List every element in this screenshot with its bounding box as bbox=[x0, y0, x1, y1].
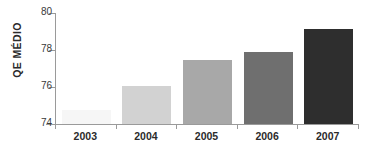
bar bbox=[122, 86, 171, 124]
y-tick-label: 78 bbox=[41, 43, 52, 54]
x-tick-mark bbox=[237, 124, 238, 129]
y-tick-label: 80 bbox=[41, 6, 52, 17]
plot-area: 74767880 bbox=[55, 13, 358, 124]
chart-title bbox=[62, 0, 308, 3]
x-tick-mark bbox=[55, 124, 56, 129]
x-axis-label: 2003 bbox=[55, 130, 116, 142]
x-tick-mark bbox=[116, 124, 117, 129]
bar bbox=[62, 110, 111, 124]
x-axis-label: 2007 bbox=[297, 130, 358, 142]
x-axis: 20032004200520062007 bbox=[46, 124, 358, 149]
bar-chart: QE MÉDIO 74767880 20032004200520062007 bbox=[0, 0, 368, 149]
x-tick-mark bbox=[297, 124, 298, 129]
y-axis-title: QE MÉDIO bbox=[11, 7, 23, 93]
x-axis-label: 2006 bbox=[237, 130, 298, 142]
bar bbox=[183, 60, 232, 124]
x-axis-label: 2004 bbox=[116, 130, 177, 142]
x-tick-mark bbox=[358, 124, 359, 129]
x-tick-mark bbox=[176, 124, 177, 129]
bar bbox=[244, 52, 293, 124]
y-tick-label: 76 bbox=[41, 80, 52, 91]
bar-series bbox=[55, 13, 358, 124]
bar bbox=[304, 29, 353, 124]
x-axis-label: 2005 bbox=[176, 130, 237, 142]
